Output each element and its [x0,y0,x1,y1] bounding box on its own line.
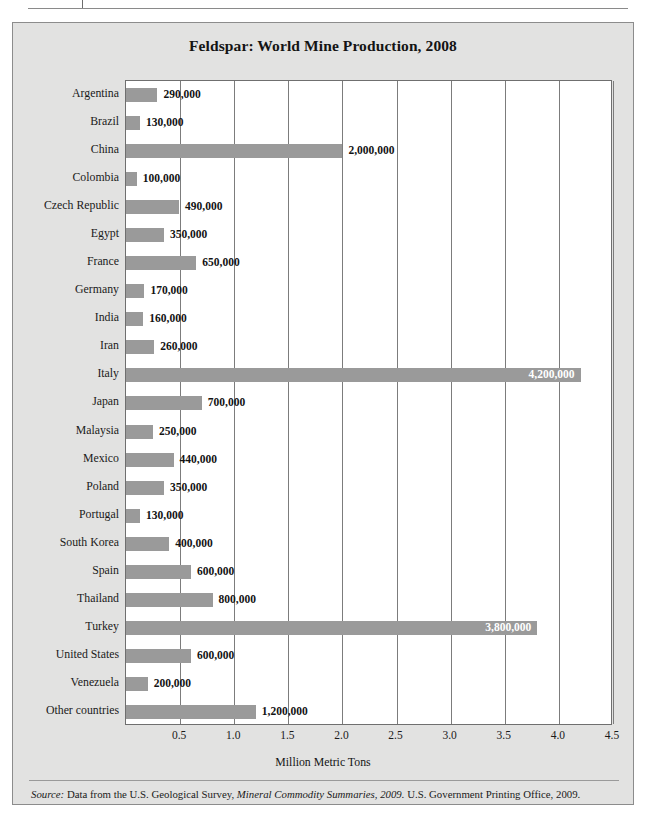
bar-row: 130,000 [126,502,611,530]
source-text-1: Data from the U.S. Geological Survey, [64,788,237,800]
category-label: Iran [23,336,119,354]
bar [126,256,196,270]
category-label: Japan [23,392,119,410]
bar [126,593,213,607]
bar-row: 400,000 [126,530,611,558]
bar [126,481,164,495]
figure-container: Feldspar: World Mine Production, 2008 Ar… [12,22,634,805]
category-label: Mexico [23,449,119,467]
x-tick-label: 1.0 [226,729,240,741]
bar-value-label: 4,200,000 [529,365,575,384]
bar [126,312,143,326]
gridline [613,81,614,724]
bar [126,705,256,719]
source-divider [29,780,619,781]
bar-row: 600,000 [126,642,611,670]
bar [126,565,191,579]
bar [126,284,144,298]
category-label: Colombia [23,168,119,186]
bar [126,200,179,214]
x-tick-label: 2.0 [334,729,348,741]
bar [126,677,148,691]
category-label: Brazil [23,112,119,130]
x-tick-label: 3.0 [442,729,456,741]
x-tick-label: 0.5 [172,729,186,741]
bar-row: 3,800,000 [126,614,611,642]
bar-row: 800,000 [126,586,611,614]
bar-value-label: 600,000 [197,562,234,581]
bar [126,228,164,242]
page-top-tick [82,0,83,8]
bar-value-label: 100,000 [143,169,180,188]
x-tick-label: 4.0 [551,729,565,741]
category-label: France [23,252,119,270]
bar [126,116,140,130]
category-label: Venezuela [23,673,119,691]
x-axis-tick-labels: 0.51.01.52.02.53.03.54.04.5 [125,729,612,747]
bar-row: 250,000 [126,418,611,446]
bar [126,144,342,158]
bar [126,425,153,439]
bar [126,396,202,410]
bar-row: 350,000 [126,221,611,249]
x-axis-title: Million Metric Tons [13,755,633,770]
bar-row: 4,200,000 [126,361,611,389]
bar-row: 600,000 [126,558,611,586]
bar [126,537,169,551]
category-label: Germany [23,280,119,298]
x-tick-label: 4.5 [605,729,619,741]
category-label: South Korea [23,533,119,551]
bar [126,453,174,467]
bar-value-label: 290,000 [163,85,200,104]
bar-value-label: 400,000 [175,534,212,553]
bar [126,509,140,523]
bar-row: 350,000 [126,474,611,502]
bar-row: 440,000 [126,446,611,474]
category-label: Malaysia [23,421,119,439]
category-label: China [23,140,119,158]
bar-value-label: 3,800,000 [485,618,531,637]
bar-value-label: 440,000 [180,450,217,469]
bar-value-label: 250,000 [159,422,196,441]
bar [126,88,157,102]
bar-value-label: 650,000 [202,253,239,272]
category-label: Thailand [23,589,119,607]
bar-value-label: 170,000 [150,281,187,300]
bar-row: 650,000 [126,249,611,277]
bar-value-label: 600,000 [197,646,234,665]
x-tick-label: 2.5 [388,729,402,741]
bar-value-label: 2,000,000 [348,141,394,160]
bar-value-label: 350,000 [170,478,207,497]
source-text-2: U.S. Government Printing Office, 2009. [404,788,580,800]
bar-row: 700,000 [126,389,611,417]
source-label: Source: [31,788,64,800]
category-label: Egypt [23,224,119,242]
source-publication: Mineral Commodity Summaries, 2009. [237,788,405,800]
bar-row: 260,000 [126,333,611,361]
chart-title: Feldspar: World Mine Production, 2008 [13,37,633,55]
category-label: Argentina [23,84,119,102]
bar [126,621,537,635]
source-note: Source: Data from the U.S. Geological Su… [31,787,621,801]
bar-row: 290,000 [126,81,611,109]
bar-value-label: 490,000 [185,197,222,216]
bar-value-label: 260,000 [160,337,197,356]
x-tick-label: 1.5 [280,729,294,741]
category-label: Poland [23,477,119,495]
bar-row: 490,000 [126,193,611,221]
bar-value-label: 700,000 [208,393,245,412]
bar-row: 1,200,000 [126,698,611,726]
bar-value-label: 130,000 [146,113,183,132]
category-axis-labels: ArgentinaBrazilChinaColombiaCzech Republ… [21,80,119,725]
bar [126,340,154,354]
bar-value-label: 1,200,000 [262,702,308,721]
bar-row: 100,000 [126,165,611,193]
page-top-rule [28,8,628,9]
category-label: Czech Republic [23,196,119,214]
bar-row: 130,000 [126,109,611,137]
bar-row: 170,000 [126,277,611,305]
bar-value-label: 800,000 [219,590,256,609]
category-label: United States [23,645,119,663]
bar-value-label: 350,000 [170,225,207,244]
category-label: Italy [23,364,119,382]
